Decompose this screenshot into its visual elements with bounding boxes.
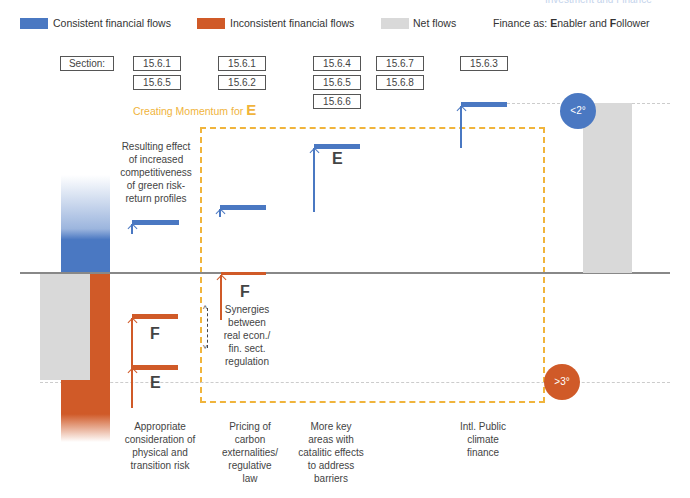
section-box: 15.6.6 — [313, 94, 361, 109]
legend-label-inconsistent: Inconsistent financial flows — [230, 17, 354, 29]
section-box: 15.6.8 — [376, 75, 424, 90]
enabler-letter-3: E — [332, 150, 343, 168]
synergies-text: Synergies between real econ./ fin. sect.… — [222, 303, 272, 368]
section-box: 15.6.3 — [460, 56, 508, 71]
follower-letter: F — [150, 325, 160, 343]
resulting-effect-text: Resulting effect of increased competitiv… — [120, 140, 192, 205]
inconsistent-flows-bar-upper — [90, 273, 110, 380]
arrow-up-icon — [128, 318, 138, 328]
legend-finance-as: Finance as: Enabler and Follower — [493, 17, 649, 29]
header-title: Investment and Finance — [545, 0, 652, 5]
consistent-flows-bar — [61, 175, 110, 273]
category-label-risk: Appropriate consideration of physical an… — [118, 420, 202, 472]
below-2deg-badge: <2° — [560, 93, 596, 129]
legend-label-net: Net flows — [413, 17, 456, 29]
section-box: 15.6.5 — [313, 75, 361, 90]
section-box: 15.6.4 — [313, 56, 361, 71]
arrow-inconsistent-1 — [131, 318, 133, 408]
follower-letter-2: F — [240, 283, 250, 301]
section-box: 15.6.1 — [133, 56, 181, 71]
section-box: 15.6.1 — [218, 56, 266, 71]
arrow-down-icon: ^ — [203, 340, 207, 350]
zero-axis — [20, 272, 670, 274]
section-box: 15.6.7 — [376, 56, 424, 71]
section-label: Section: — [60, 56, 114, 71]
legend-swatch-inconsistent — [197, 18, 225, 29]
above-3deg-badge: >3° — [544, 364, 580, 400]
section-box: 15.6.5 — [133, 75, 181, 90]
category-label-key-areas: More key areas with catalitic effects to… — [298, 420, 364, 485]
legend-swatch-net — [381, 18, 409, 29]
step-bar-enabler — [132, 365, 178, 370]
net-flows-bar-right — [583, 103, 632, 273]
category-label-carbon-pricing: Pricing of carbon externalities/ regulat… — [220, 420, 280, 485]
step-bar-follower — [132, 314, 178, 319]
arrow-up-icon — [128, 224, 138, 234]
legend-swatch-consistent — [20, 18, 48, 29]
legend-label-consistent: Consistent financial flows — [53, 17, 171, 29]
step-bar-consistent-3 — [314, 144, 360, 149]
net-flows-bar-left — [40, 273, 90, 380]
step-bar-consistent-5 — [461, 102, 507, 107]
momentum-letter: E — [246, 101, 256, 118]
finance-as-prefix: Finance as: — [493, 17, 550, 29]
step-bar-follower-2 — [221, 272, 266, 275]
enabler-letter: E — [150, 374, 161, 392]
step-bar-consistent-1 — [132, 220, 179, 225]
enabler-rest: nabler — [557, 17, 586, 29]
arrow-up-icon: ^ — [203, 304, 207, 314]
momentum-text: Creating Momentum for — [133, 105, 246, 117]
inconsistent-flows-bar-lower — [61, 380, 110, 442]
step-bar-consistent-2 — [220, 205, 266, 210]
arrow-up-icon — [457, 106, 467, 116]
section-box: 15.6.2 — [218, 75, 266, 90]
category-label-public-finance: Intl. Public climate finance — [458, 420, 508, 459]
follower-rest: ollower — [616, 17, 649, 29]
and-text: and — [586, 17, 609, 29]
momentum-label: Creating Momentum for E — [133, 101, 256, 118]
